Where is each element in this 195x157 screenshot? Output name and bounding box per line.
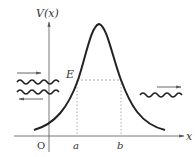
turning-point-a-label: a (73, 140, 79, 151)
turning-point-b-label: b (117, 140, 123, 151)
x-axis-label: x (186, 130, 193, 143)
reflected-wave (17, 90, 59, 94)
potential-barrier-diagram: V(x) x O E a b (0, 0, 195, 157)
origin-label: O (37, 140, 45, 151)
incident-wave (17, 80, 59, 84)
potential-curve (34, 24, 165, 130)
energy-label: E (65, 68, 74, 81)
transmitted-wave (140, 93, 182, 97)
y-axis-label: V(x) (36, 7, 59, 20)
